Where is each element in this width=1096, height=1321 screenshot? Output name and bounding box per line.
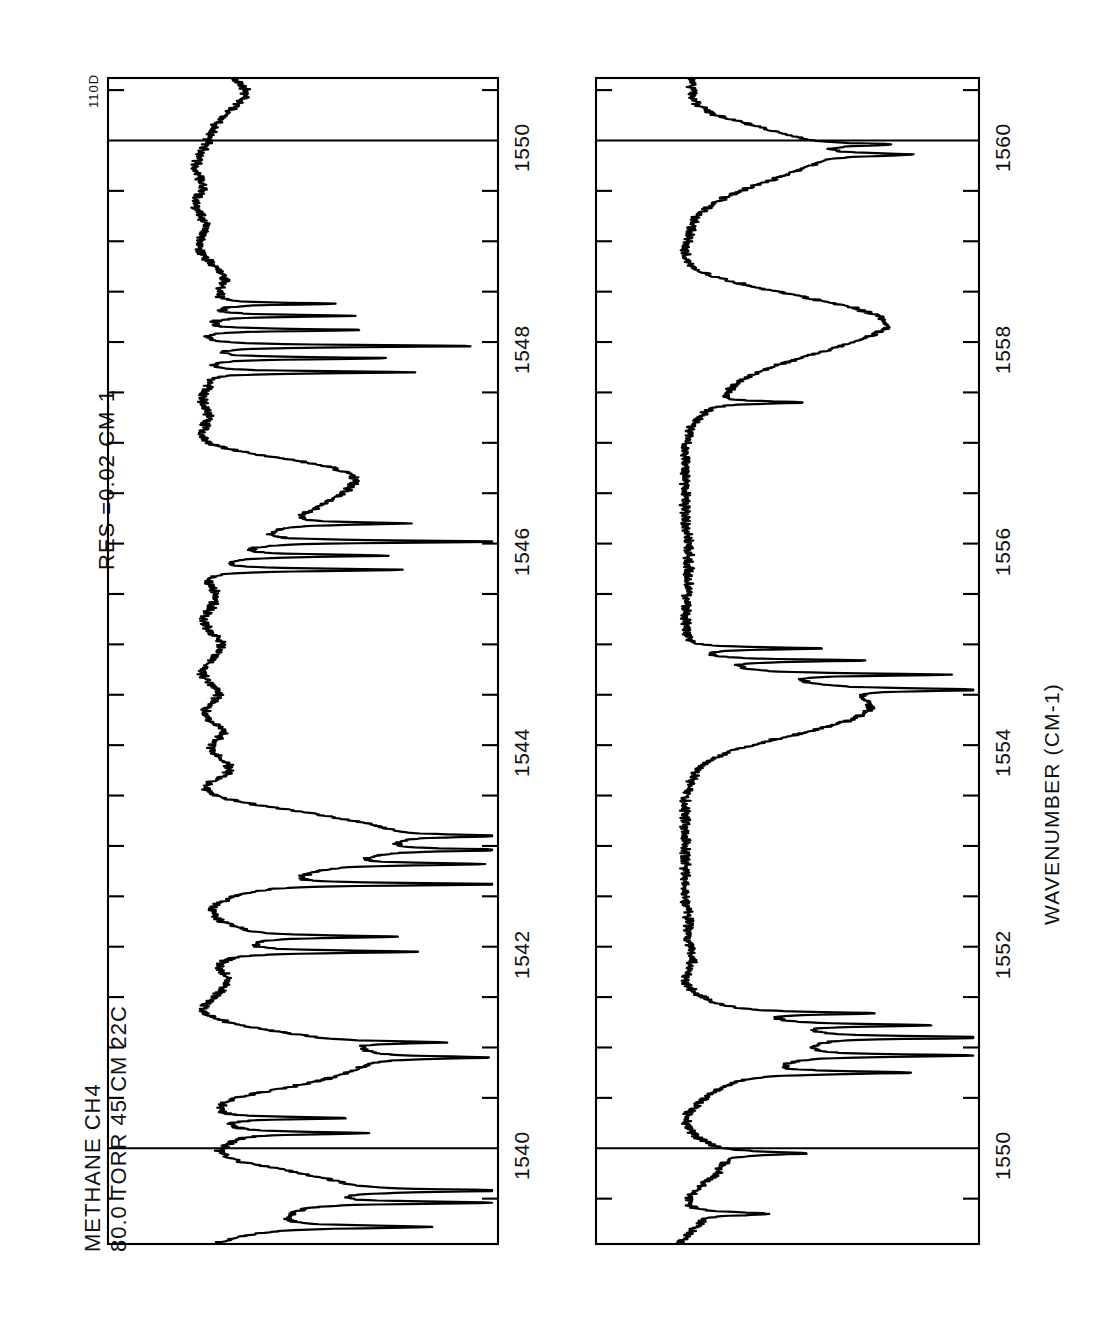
axis-tick-label: 1542 bbox=[510, 930, 534, 979]
axis-tick-label: 1550 bbox=[510, 124, 534, 173]
axis-tick-label: 1550 bbox=[991, 1132, 1015, 1181]
axis-tick-label: 1546 bbox=[510, 527, 534, 576]
spectrum-plot-top bbox=[0, 0, 1096, 1321]
axis-tick-label: 1540 bbox=[510, 1132, 534, 1181]
axis-tick-label: 1544 bbox=[510, 728, 534, 777]
resolution-annotation: RES =0.02 CM-1 bbox=[94, 389, 120, 570]
spectrum-trace bbox=[677, 78, 973, 1244]
sample-title: METHANE CH4 bbox=[80, 1083, 106, 1252]
axis-tick-label: 1556 bbox=[991, 527, 1015, 576]
spectrum-trace bbox=[191, 78, 492, 1244]
plot-id-code: 110D bbox=[86, 74, 101, 108]
axis-tick-label: 1548 bbox=[510, 325, 534, 374]
x-axis-title: WAVENUMBER (CM-1) bbox=[1040, 683, 1064, 925]
axis-tick-label: 1552 bbox=[991, 930, 1015, 979]
sample-conditions: 80.0 TORR 45 CM 22C bbox=[106, 1005, 132, 1252]
axis-tick-label: 1554 bbox=[991, 728, 1015, 777]
axis-tick-label: 1558 bbox=[991, 325, 1015, 374]
axis-tick-label: 1560 bbox=[991, 124, 1015, 173]
figure-canvas: 110D METHANE CH4 80.0 TORR 45 CM 22C RES… bbox=[0, 0, 1096, 1321]
